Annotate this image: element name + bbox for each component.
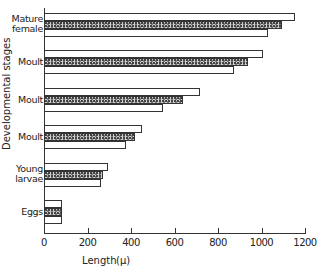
x-tick: [305, 228, 306, 233]
bar-open: [44, 50, 263, 58]
category-label: Moult: [18, 132, 43, 142]
bar-stippled: [44, 58, 248, 66]
x-tick: [88, 228, 89, 233]
x-tick-label: 600: [155, 237, 195, 248]
x-tick: [175, 228, 176, 233]
x-axis-line: [44, 233, 306, 234]
x-tick-label: 800: [198, 237, 238, 248]
bar-stippled: [44, 171, 103, 179]
category-label: Moult: [18, 95, 43, 105]
bar-stippled: [44, 133, 135, 141]
x-tick-label: 1200: [285, 237, 325, 248]
bar-open: [44, 216, 62, 224]
bar-open: [44, 179, 101, 187]
bar-open: [44, 29, 268, 37]
x-tick-label: 1000: [242, 237, 282, 248]
x-tick: [131, 228, 132, 233]
category-label: Moult: [18, 57, 43, 67]
chart: 020040060080010001200 Mature femaleMoult…: [0, 0, 326, 273]
category-label: Young larvae: [15, 164, 43, 184]
bar-open: [44, 88, 200, 96]
category-label: Mature female: [11, 14, 43, 34]
x-tick: [218, 228, 219, 233]
bar-open: [44, 163, 108, 171]
bar-stippled: [44, 21, 282, 29]
bar-stippled: [44, 96, 183, 104]
bar-open: [44, 13, 295, 21]
y-axis-label: Developmental stages: [1, 38, 12, 150]
bar-open: [44, 104, 163, 112]
category-label: Eggs: [21, 207, 43, 217]
bar-open: [44, 141, 126, 149]
bar-stippled: [44, 208, 62, 216]
bar-open: [44, 125, 142, 133]
bar-open: [44, 66, 234, 74]
x-axis-label: Length: [82, 255, 117, 266]
x-tick-label: 400: [111, 237, 151, 248]
x-axis-unit: (μ): [116, 255, 130, 266]
x-tick-label: 0: [24, 237, 64, 248]
bar-open: [44, 200, 62, 208]
x-tick: [262, 228, 263, 233]
x-tick-label: 200: [68, 237, 108, 248]
